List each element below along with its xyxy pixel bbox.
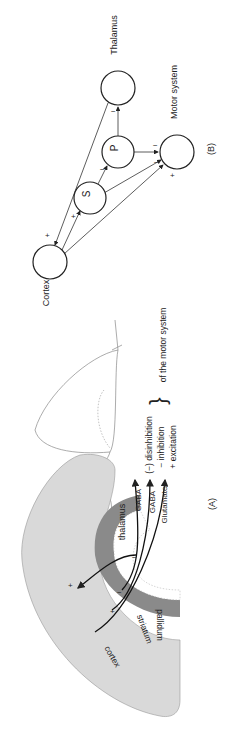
panel-b-label: (B) xyxy=(206,143,216,155)
panel-b: P S Thalamus Motor system Cortex (B) + +… xyxy=(33,15,216,307)
sign: − xyxy=(117,588,122,597)
figure: P S Thalamus Motor system Cortex (B) + +… xyxy=(0,0,226,738)
edge-thalamus-cortex xyxy=(55,103,108,245)
cortex-node xyxy=(33,245,67,279)
pathway-label: GABA xyxy=(134,488,143,511)
sign: + xyxy=(71,212,76,221)
legend-suffix: of the motor system xyxy=(158,308,168,383)
brace: } xyxy=(145,397,170,404)
legend-item: − inhibition xyxy=(156,426,166,467)
sign: − xyxy=(153,141,158,150)
sign: + xyxy=(45,231,50,240)
sign: − xyxy=(100,165,105,174)
thalamus-region-label: thalamus xyxy=(117,503,127,540)
sign: − xyxy=(111,107,116,116)
panel-a: thalamus GABA GABA Glutamate (−) disinhi… xyxy=(22,308,217,717)
sign: + xyxy=(170,171,175,180)
legend-item: (−) disinhibition xyxy=(144,416,154,474)
thalamus-node xyxy=(101,71,135,105)
panel-a-label: (A) xyxy=(207,498,217,510)
thalamus-label: Thalamus xyxy=(109,15,119,55)
s-label: S xyxy=(81,190,92,197)
sign: + xyxy=(68,581,73,590)
motor-label: Motor system xyxy=(169,65,179,119)
sign: − xyxy=(132,553,137,562)
sign: + xyxy=(110,607,115,616)
brainstem-outline xyxy=(35,350,118,453)
motor-node xyxy=(160,135,194,169)
cortex-label: Cortex xyxy=(41,279,51,306)
legend-item: + excitation xyxy=(168,425,178,469)
pallidum-label: pallidum xyxy=(155,609,165,641)
pathway-label: GABA xyxy=(148,490,157,513)
p-label: P xyxy=(109,144,120,151)
pathway-label: Glutamate xyxy=(160,486,169,523)
sign: − xyxy=(154,158,159,167)
